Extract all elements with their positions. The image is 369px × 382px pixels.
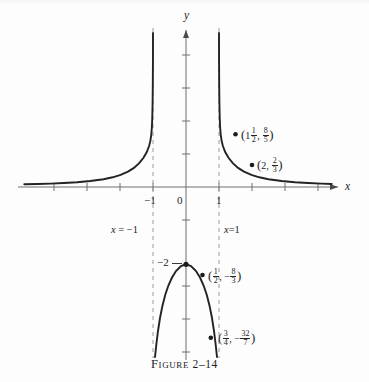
point-label-p2: (2, 23) xyxy=(257,157,283,174)
point-label-p1: (112, 85) xyxy=(241,127,274,144)
p3-x-fraction: 12 xyxy=(213,268,219,285)
figure-container: y x −1 0 1 −2 x = −1 x=1 (112, 85) (2, 2… xyxy=(0,0,369,382)
p2-y-den: 3 xyxy=(272,166,278,174)
p3-x-den: 2 xyxy=(213,277,219,285)
y-axis xyxy=(183,30,189,360)
point-marker-vertex xyxy=(183,262,188,267)
figure-caption-number: 2–14 xyxy=(193,358,218,370)
x-axis xyxy=(18,184,338,190)
x-tick-label-zero: 0 xyxy=(177,195,183,206)
p3-y-den: 3 xyxy=(230,277,236,285)
paren-close: ) xyxy=(278,158,282,172)
p1-x-fraction: 12 xyxy=(251,127,257,144)
point-marker-p2 xyxy=(250,163,255,168)
x-axis-label: x xyxy=(345,181,350,193)
asymptote-left-var: x xyxy=(111,224,116,235)
point-marker-p4 xyxy=(209,336,214,341)
x-tick-label-neg-one: −1 xyxy=(144,195,156,206)
p4-x-fraction: 34 xyxy=(223,330,229,347)
p1-y-fraction: 85 xyxy=(263,127,269,144)
y-label-neg-two: −2 xyxy=(157,257,169,268)
p4-y-fraction: 327 xyxy=(240,330,250,347)
x-tick-label-one: 1 xyxy=(216,195,222,206)
p2-y-fraction: 23 xyxy=(272,157,278,174)
p3-y-sign: − xyxy=(224,271,230,282)
p3-y-fraction: 83 xyxy=(230,268,236,285)
y-axis-label: y xyxy=(184,10,189,22)
figure-caption-word: Figure xyxy=(151,357,189,371)
p1-x-whole: 1 xyxy=(245,130,250,141)
asymptote-left-eq: = xyxy=(118,224,124,235)
curve-left-branch xyxy=(24,33,153,184)
comma: , xyxy=(266,160,271,171)
point-marker-p1 xyxy=(233,132,238,137)
paren-close: ) xyxy=(269,128,273,142)
p4-x-den: 4 xyxy=(223,339,229,347)
asymptote-right-value: 1 xyxy=(235,224,240,235)
paren-open: ( xyxy=(218,331,222,345)
point-marker-p3 xyxy=(200,273,205,278)
p4-y-sign: − xyxy=(234,333,240,344)
asymptote-label-left: x = −1 xyxy=(111,225,138,236)
graph-canvas xyxy=(0,0,369,382)
paren-close: ) xyxy=(251,331,255,345)
p1-x-den: 2 xyxy=(251,136,257,144)
point-label-p3: (12, −83) xyxy=(208,268,241,285)
p4-y-den: 7 xyxy=(240,339,250,347)
paren-open: ( xyxy=(208,269,212,283)
asymptote-left-value: −1 xyxy=(127,224,138,235)
paren-close: ) xyxy=(237,269,241,283)
asymptote-label-right: x=1 xyxy=(224,225,240,236)
comma: , xyxy=(257,130,262,141)
p1-y-den: 5 xyxy=(263,136,269,144)
figure-caption: Figure 2–14 xyxy=(0,357,369,372)
point-label-p4: (34, −327) xyxy=(218,330,255,347)
